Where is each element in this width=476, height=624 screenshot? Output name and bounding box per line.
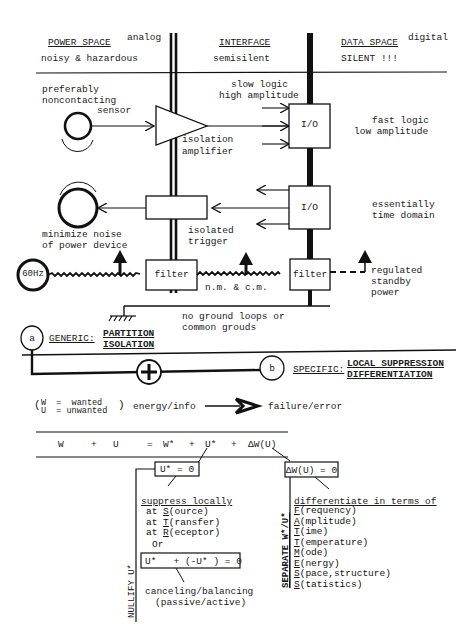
- standby-power-1: regulated: [371, 265, 422, 276]
- analog-interface-barrier: [171, 33, 176, 293]
- separate-item: S(tatistics): [294, 580, 391, 591]
- eq-delta-w: ΔW(U): [248, 439, 277, 450]
- eq-equals: =: [147, 439, 153, 450]
- noisy-power-line: [48, 273, 140, 276]
- data-space-subtitle: SILENT !!!: [341, 53, 398, 64]
- legend-close-paren: ): [118, 400, 125, 411]
- slow-logic-2: high amplitude: [219, 90, 299, 101]
- legend-failure-error: failure/error: [268, 401, 342, 412]
- balance-box-label: U* + (-U* ) = 0: [145, 556, 242, 567]
- ground-note-2: common grouds: [182, 322, 256, 333]
- power-device-2: of power device: [42, 240, 128, 251]
- interface-title: INTERFACE: [219, 37, 270, 48]
- separate-list: F(requency) A(mplitude) T(ime) T(emperat…: [294, 506, 391, 590]
- generic-term-isolation: ISOLATION: [103, 339, 154, 350]
- eq-plus-1: +: [91, 439, 97, 450]
- sensor-label-3: sensor: [97, 105, 131, 116]
- time-domain-2: time domain: [372, 210, 435, 221]
- isolation-amplifier-1: isolation: [182, 134, 233, 145]
- nullify-or: Or: [152, 539, 163, 550]
- data-space-title: DATA SPACE: [341, 37, 398, 48]
- generic-term-partition: PARTITION: [103, 328, 154, 339]
- specific-term-local-suppression: LOCAL SUPPRESSION: [347, 358, 444, 369]
- eq-u-star: U*: [205, 439, 216, 450]
- node-a-label: a: [21, 333, 43, 344]
- noise-spike-icon-2: [239, 252, 253, 265]
- digital-tag: digital: [408, 32, 448, 43]
- eq-plus-2: +: [189, 439, 195, 450]
- nullify-list: at S(ource) at T(ransfer) at R(eceptor): [146, 507, 220, 539]
- legend-open-paren: (: [34, 400, 41, 411]
- interface-subtitle: semisilent: [213, 53, 270, 64]
- ground-icon: [109, 316, 136, 321]
- specific-term-differentiation: DIFFERENTIATION: [347, 369, 433, 380]
- power-device-1: minimize noise: [42, 229, 122, 240]
- isolated-trigger-box: [146, 196, 207, 219]
- eq-w: W: [58, 439, 64, 450]
- specific-label: SPECIFIC:: [293, 364, 344, 375]
- legend-energy-info: energy/info: [133, 401, 196, 412]
- eq-plus-3: +: [231, 439, 237, 450]
- balance-note-2: (passive/active): [155, 597, 246, 608]
- eq-u: U: [113, 439, 119, 450]
- io-top-label: I/O: [289, 119, 330, 130]
- io-mid-label: I/O: [289, 202, 330, 213]
- ground-note-1: no ground loops or: [182, 311, 285, 322]
- noise-modes-label: n.m. & c.m.: [205, 282, 268, 293]
- noise-spike-icon: [113, 250, 127, 263]
- node-b-label: b: [260, 363, 284, 374]
- noisy-interface-line: [197, 272, 280, 275]
- sensor-field-icon: [62, 139, 93, 152]
- slow-logic-1: slow logic: [231, 79, 288, 90]
- standby-power-3: power: [371, 287, 400, 298]
- isolation-amplifier-2: amplifier: [182, 146, 233, 157]
- sensor-label-1: preferably: [42, 84, 99, 95]
- standby-power-2: standby: [371, 276, 411, 287]
- nullify-item: at R(eceptor): [146, 528, 220, 539]
- nullify-box-label: U* = 0: [155, 464, 199, 475]
- legend-u-def: U = unwanted: [41, 407, 107, 416]
- time-domain-1: essentially: [372, 199, 435, 210]
- fast-logic-1: fast logic: [372, 115, 429, 126]
- source-60hz-label: 60Hz: [18, 269, 48, 279]
- balance-note-1: canceling/balancing: [145, 586, 253, 597]
- filter-right-label: filter: [290, 269, 330, 280]
- fast-logic-2: low amplitude: [354, 126, 428, 137]
- eq-w-star: W*: [163, 439, 174, 450]
- sensor-icon: [65, 113, 91, 139]
- separate-side-label: SEPARATE W*/U*: [281, 512, 291, 588]
- header-divider: [36, 72, 447, 73]
- power-device-icon: [59, 189, 97, 227]
- generic-label: GENERIC:: [49, 333, 95, 344]
- standby-power-arrow-icon: [358, 250, 372, 263]
- separate-box-label: ΔW(U) = 0: [285, 465, 338, 476]
- section-divider: [22, 350, 456, 355]
- analog-tag: analog: [127, 32, 161, 43]
- power-space-subtitle: noisy & hazardous: [41, 53, 138, 64]
- isolated-trigger-2: trigger: [188, 236, 228, 247]
- filter-left-label: filter: [146, 269, 197, 280]
- nullify-side-label: NULLIFY U*: [127, 564, 137, 618]
- isolated-trigger-1: isolated: [188, 225, 234, 236]
- power-space-title: POWER SPACE: [48, 37, 111, 48]
